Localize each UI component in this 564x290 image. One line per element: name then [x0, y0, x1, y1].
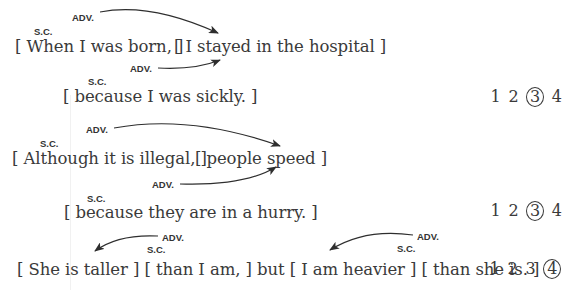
arrow-ex2-adv-1 — [114, 124, 280, 146]
choice-4[interactable]: 4 — [550, 89, 563, 105]
adv-label: ADV. — [130, 64, 152, 74]
choice-2[interactable]: 2 — [506, 261, 519, 277]
adv-label: ADV. — [72, 13, 94, 23]
independent-clause: [ I stayed in the hospital ] — [174, 39, 386, 56]
choice-1[interactable]: 1 — [488, 261, 501, 277]
choice-1[interactable]: 1 — [489, 89, 502, 105]
answer-choices: 1 2 3 4 — [488, 259, 562, 279]
choice-2[interactable]: 2 — [507, 89, 520, 105]
sc-label: S.C. — [147, 245, 165, 255]
adv-label: ADV. — [162, 233, 184, 243]
arrow-ex1-adv-2 — [158, 60, 220, 68]
sc-label: S.C. — [40, 139, 58, 149]
arrow-ex2-adv-2 — [180, 167, 276, 184]
sc-label: S.C. — [88, 77, 106, 87]
sc-label: S.C. — [397, 244, 415, 254]
subordinate-clause: [ When I was born, ] — [15, 39, 183, 56]
adv-label: ADV. — [86, 125, 108, 135]
answer-choices: 1 2 3 4 — [489, 201, 563, 221]
choice-3-selected[interactable]: 3 — [526, 87, 544, 107]
independent-clause: [ people speed ] — [195, 151, 327, 168]
choice-3-selected[interactable]: 3 — [526, 201, 544, 221]
choice-4-selected[interactable]: 4 — [543, 259, 561, 279]
sc-label: S.C. — [34, 27, 52, 37]
answer-choices: 1 2 3 4 — [489, 87, 563, 107]
compound-sentence: [ She is taller ] [ than I am, ] but [ I… — [17, 262, 539, 279]
arrow-ex1-adv-1 — [100, 10, 218, 33]
subordinate-clause: [ Although it is illegal, ] — [12, 151, 207, 168]
choice-4[interactable]: 4 — [550, 203, 563, 219]
choice-3[interactable]: 3 — [524, 261, 537, 277]
subordinate-clause: [ because I was sickly. ] — [63, 89, 257, 106]
subordinate-clause: [ because they are in a hurry. ] — [64, 205, 318, 222]
choice-2[interactable]: 2 — [507, 203, 520, 219]
adv-label: ADV. — [417, 232, 439, 242]
adv-label: ADV. — [152, 180, 174, 190]
choice-1[interactable]: 1 — [489, 203, 502, 219]
